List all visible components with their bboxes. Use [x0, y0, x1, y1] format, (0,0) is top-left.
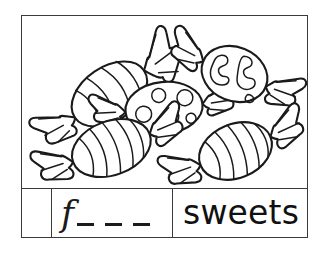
number-cell[interactable] — [22, 189, 52, 237]
spelling-blank-cell[interactable]: f — [52, 189, 173, 237]
word-cell: sweets — [173, 189, 307, 237]
initial-letter: f — [61, 197, 74, 232]
blank-dash[interactable] — [77, 223, 94, 226]
picture-panel — [22, 16, 307, 188]
blank-dash[interactable] — [105, 223, 122, 226]
word-label: sweets — [183, 196, 299, 229]
answer-row: f sweets — [22, 188, 307, 237]
blank-dashes[interactable] — [77, 223, 150, 226]
candies-illustration — [22, 16, 307, 188]
worksheet-card: f sweets — [21, 15, 308, 238]
blank-dash[interactable] — [133, 223, 150, 226]
